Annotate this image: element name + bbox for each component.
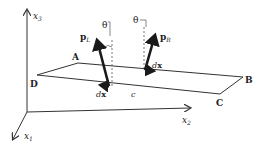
dx-left-label: dx [96, 89, 106, 99]
pL-arrow [97, 40, 109, 86]
diagram-canvas: x3 x2 x1 A B C D c pL θ dx pR θ dx [0, 0, 264, 148]
angle-arc-left [104, 46, 112, 48]
x1-label: x1 [24, 131, 33, 142]
corner-B-label: B [245, 75, 253, 85]
pR-label: pR [160, 32, 171, 43]
plane [37, 63, 243, 94]
x3-label: x3 [33, 11, 42, 22]
pL-label: pL [80, 32, 90, 43]
corner-A-label: A [71, 52, 80, 62]
theta-leader-left [108, 22, 110, 36]
x2-axis [27, 108, 190, 112]
vector-left [97, 22, 112, 86]
theta-right-label: θ [133, 15, 138, 25]
corner-D-label: D [30, 79, 38, 89]
center-c-label: c [131, 90, 136, 99]
dx-left-arrow [100, 85, 109, 86]
theta-leader-right [140, 20, 146, 27]
corner-C-label: C [216, 98, 223, 108]
dx-right-label: dx [152, 60, 162, 70]
theta-left-label: θ [102, 20, 107, 30]
x2-label: x2 [182, 115, 191, 126]
dx-right-arrow [145, 70, 154, 71]
